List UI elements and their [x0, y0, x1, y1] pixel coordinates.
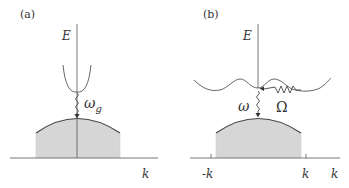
panel-a: (a) E k ωg [10, 8, 158, 181]
phonon-omega-label: Ω [276, 99, 288, 115]
energy-label-a: E [61, 29, 71, 43]
panel-b-label: (b) [203, 8, 219, 21]
valence-band-b [216, 119, 301, 159]
arrow-head-b [256, 113, 261, 118]
photon-wavy-arrow-b [257, 91, 260, 115]
k-label-b: k [331, 167, 338, 181]
phonon-zigzag-arrow [264, 86, 301, 93]
pos-k-tick-label: k [302, 167, 309, 181]
band-diagram-figure: (a) E k ωg (b) E k -k k [0, 0, 349, 188]
panel-b: (b) E k -k k Ω ω [190, 8, 340, 181]
k-label-a: k [142, 167, 149, 181]
valence-band-a [36, 119, 120, 159]
omega-g-label: ωg [84, 95, 102, 114]
omega-label-b: ω [238, 98, 250, 114]
panel-a-label: (a) [20, 8, 35, 21]
arrow-head-a [75, 114, 80, 119]
neg-k-tick-label: -k [202, 167, 213, 181]
energy-label-b: E [242, 29, 252, 43]
